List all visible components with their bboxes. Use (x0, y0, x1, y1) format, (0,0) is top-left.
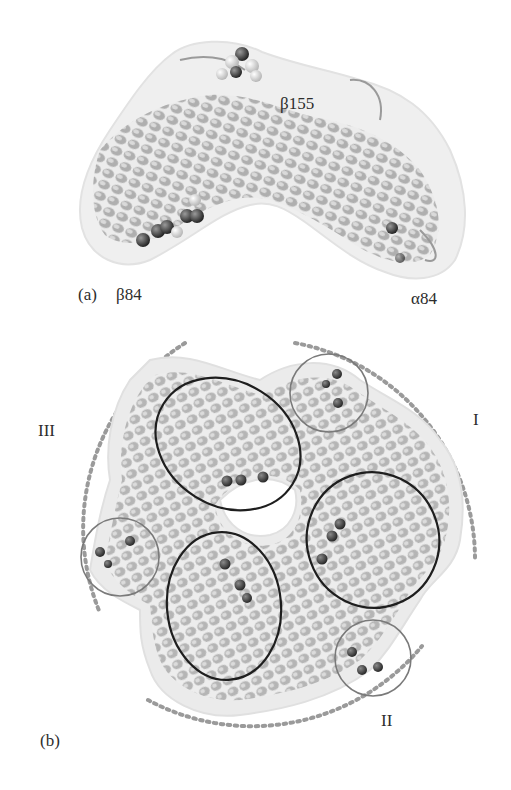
panel-b-protein-top-view: III I II (b) (0, 330, 511, 790)
panel-a-label: (a) (78, 285, 97, 305)
protein-structure-side-view (0, 0, 511, 330)
panel-a-protein-side-view: β155 (a) β84 α84 (0, 0, 511, 330)
region-label-III: III (38, 421, 55, 441)
residue-label-beta155: β155 (280, 94, 314, 114)
region-label-II: II (381, 711, 392, 731)
panel-b-label: (b) (40, 731, 60, 751)
region-label-I: I (473, 410, 479, 430)
protein-structure-top-view (0, 330, 511, 790)
residue-label-beta84: β84 (116, 285, 142, 305)
residue-label-alpha84: α84 (411, 289, 437, 309)
